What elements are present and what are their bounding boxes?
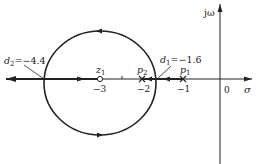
zero-marker bbox=[97, 76, 102, 81]
real-axis-label: σ bbox=[244, 84, 252, 95]
circle-locus bbox=[44, 29, 156, 138]
arrow-to-zero-icon bbox=[77, 77, 85, 82]
arrow-left-small-icon bbox=[163, 77, 170, 82]
arrow-top-icon bbox=[96, 29, 102, 34]
imaginary-axis bbox=[218, 4, 223, 164]
root-locus-diagram: d2=−4.4 d1=−1.6 z1 p2 p1 −3 −2 −1 0 σ jω bbox=[0, 0, 259, 164]
tick-label-neg3: −3 bbox=[93, 84, 107, 94]
d2-leader bbox=[24, 65, 44, 79]
tick-label-neg1: −1 bbox=[177, 84, 190, 94]
p1-label: p1 bbox=[180, 64, 191, 77]
arrow-bottom-icon bbox=[97, 133, 103, 138]
imag-axis-label: jω bbox=[203, 7, 215, 18]
arrow-left-icon bbox=[6, 76, 16, 82]
z1-label: z1 bbox=[95, 64, 105, 77]
p2-label: p2 bbox=[137, 64, 148, 77]
tick-label-neg2: −2 bbox=[137, 84, 150, 94]
arrow-right-icon bbox=[146, 77, 152, 82]
d2-label: d2=−4.4 bbox=[4, 55, 46, 68]
origin-label: 0 bbox=[224, 85, 230, 95]
